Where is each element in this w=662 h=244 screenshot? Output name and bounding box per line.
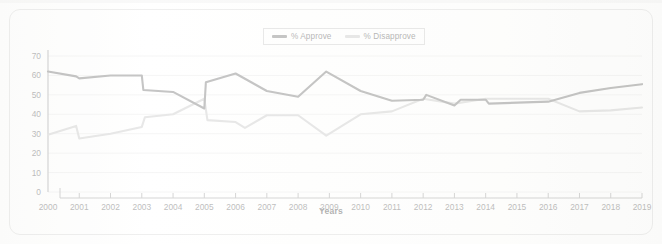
legend-label-approve: % Approve xyxy=(291,32,332,41)
legend-swatch-approve xyxy=(272,35,287,38)
y-tick-label: 0 xyxy=(36,187,41,197)
y-tick-label: 30 xyxy=(32,129,42,139)
series-line-disapprove xyxy=(48,99,642,139)
y-tick-label: 10 xyxy=(32,168,42,178)
x-axis-title: Years xyxy=(10,206,652,216)
series-line-approve xyxy=(48,72,642,109)
legend-item-disapprove[interactable]: % Disapprove xyxy=(345,32,416,41)
y-tick-label: 20 xyxy=(32,148,42,158)
chart-card: 7060504030201002000200120022003200420052… xyxy=(9,9,653,235)
chart-legend: % Approve % Disapprove xyxy=(263,28,425,45)
y-tick-label: 70 xyxy=(32,51,42,61)
legend-label-disapprove: % Disapprove xyxy=(364,32,416,41)
legend-swatch-disapprove xyxy=(345,35,360,38)
legend-item-approve[interactable]: % Approve xyxy=(272,32,332,41)
y-tick-label: 50 xyxy=(32,90,42,100)
y-tick-label: 60 xyxy=(32,70,42,80)
y-tick-label: 40 xyxy=(32,109,42,119)
